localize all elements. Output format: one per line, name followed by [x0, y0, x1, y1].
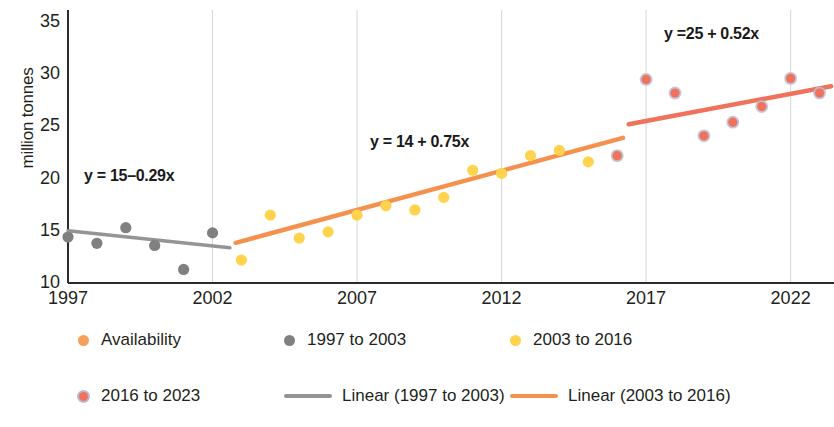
data-point-2016-to-2023 — [786, 74, 795, 83]
legend-item-label: 1997 to 2003 — [307, 330, 406, 350]
data-point-2003-to-2016 — [351, 210, 362, 221]
data-point-2003-to-2016 — [438, 192, 449, 203]
legend-row: Availability1997 to 20032003 to 2016 — [78, 330, 834, 358]
legend-row: Linear (2016 to 2023) — [78, 386, 834, 414]
x-axis-tick-2022: 2022 — [751, 288, 831, 309]
data-point-2016-to-2023 — [642, 75, 651, 84]
data-point-2016-to-2023 — [699, 131, 708, 140]
legend-item-label: Availability — [101, 330, 181, 350]
data-point-2003-to-2016 — [496, 168, 507, 179]
data-point-2016-to-2023 — [757, 102, 766, 111]
data-point-2003-to-2016 — [409, 204, 420, 215]
x-axis-tick-1997: 1997 — [28, 288, 108, 309]
data-point-2003-to-2016 — [467, 165, 478, 176]
legend-row: 2016 to 2023Linear (1997 to 2003)Linear … — [78, 358, 834, 386]
data-point-1997-to-2003 — [62, 231, 73, 242]
legend-item-2003-to-2016[interactable]: 2003 to 2016 — [510, 330, 632, 350]
legend-marker-dot — [510, 335, 521, 346]
legend-item-availability[interactable]: Availability — [78, 330, 181, 350]
annotation-equation-2: y = 14 + 0.75x — [370, 133, 469, 151]
data-point-1997-to-2003 — [207, 227, 218, 238]
data-point-2003-to-2016 — [323, 226, 334, 237]
data-point-2003-to-2016 — [554, 145, 565, 156]
legend-marker-dot — [78, 335, 89, 346]
data-point-2003-to-2016 — [583, 156, 594, 167]
data-point-2016-to-2023 — [815, 88, 824, 97]
annotation-equation-1: y = 15–0.29x — [84, 167, 174, 185]
legend-item-1997-to-2003[interactable]: 1997 to 2003 — [284, 330, 406, 350]
chart-legend: Availability1997 to 20032003 to 20162016… — [78, 330, 834, 414]
annotation-equation-3: y =25 + 0.52x — [664, 25, 759, 43]
data-point-2003-to-2016 — [265, 210, 276, 221]
data-point-2016-to-2023 — [613, 151, 622, 160]
data-point-1997-to-2003 — [178, 264, 189, 275]
legend-marker-dot — [284, 335, 295, 346]
data-point-2016-to-2023 — [670, 88, 679, 97]
trendline-2 — [236, 138, 623, 243]
x-axis-tick-2002: 2002 — [173, 288, 253, 309]
data-point-2016-to-2023 — [728, 118, 737, 127]
data-point-1997-to-2003 — [120, 222, 131, 233]
data-point-2003-to-2016 — [380, 200, 391, 211]
data-point-1997-to-2003 — [91, 238, 102, 249]
x-axis-tick-2017: 2017 — [606, 288, 686, 309]
data-point-1997-to-2003 — [149, 240, 160, 251]
data-point-2003-to-2016 — [236, 254, 247, 265]
data-point-2003-to-2016 — [294, 233, 305, 244]
x-axis-tick-2012: 2012 — [462, 288, 542, 309]
chart-container: million tonnes 353025201510 199720022007… — [0, 0, 834, 427]
data-point-2003-to-2016 — [525, 150, 536, 161]
legend-item-label: 2003 to 2016 — [533, 330, 632, 350]
x-axis-tick-2007: 2007 — [317, 288, 397, 309]
